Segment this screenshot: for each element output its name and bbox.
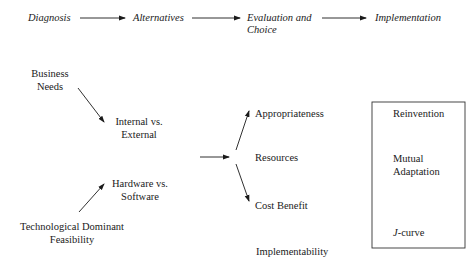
box-reinvention: Reinvention [393, 108, 445, 119]
arrow-business-to-internal [78, 88, 104, 122]
internal-external-line1: Internal vs. [115, 116, 162, 127]
tech-feasibility-line1: Technological Dominant [20, 221, 124, 232]
criterion-appropriateness: Appropriateness [255, 108, 324, 119]
criterion-implementability: Implementability [256, 246, 329, 257]
box-adaptation: Adaptation [393, 166, 440, 177]
internal-external-line2: External [121, 129, 157, 140]
stage-implementation: Implementation [374, 12, 441, 23]
hardware-software-line2: Software [121, 191, 159, 202]
business-needs-line1: Business [31, 68, 68, 79]
arrow-up-appropriateness [236, 111, 249, 150]
criterion-resources: Resources [255, 152, 298, 163]
box-jcurve-rest: -curve [398, 227, 425, 238]
hardware-software-line1: Hardware vs. [112, 178, 168, 189]
arrow-down-cost-benefit [236, 164, 249, 201]
arrow-tech-to-hardware [79, 184, 104, 212]
criterion-cost-benefit: Cost Benefit [255, 200, 308, 211]
decision-process-diagram: Diagnosis Alternatives Evaluation and Ch… [0, 0, 475, 267]
box-mutual: Mutual [393, 153, 423, 164]
tech-feasibility-line2: Feasibility [50, 234, 95, 245]
stage-alternatives: Alternatives [132, 12, 184, 23]
stage-evaluation-line2: Choice [247, 24, 277, 35]
business-needs-line2: Needs [37, 81, 63, 92]
box-jcurve: J-curve [393, 227, 425, 238]
stage-evaluation-line1: Evaluation and [246, 12, 312, 23]
stage-diagnosis: Diagnosis [27, 12, 71, 23]
